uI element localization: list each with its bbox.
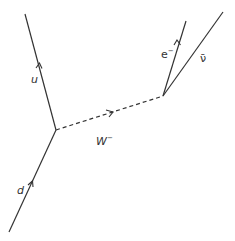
w-boson-line [56,96,163,130]
d-quark-label: d [17,185,24,196]
antineutrino-label: ν̄ [200,53,206,64]
electron-label-charge: − [168,47,174,55]
w-boson-label: W− [96,135,113,147]
w-boson-label-base: W [96,135,107,148]
u-quark-label: u [31,74,38,85]
electron-label: e− [161,48,174,60]
feynman-diagram [0,0,235,241]
electron-label-base: e [161,48,168,61]
u-quark-line [25,14,56,130]
w-boson-arrow-icon [106,110,113,117]
w-boson-label-charge: − [107,134,113,142]
